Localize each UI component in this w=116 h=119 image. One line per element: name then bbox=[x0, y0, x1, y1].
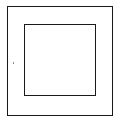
speck-mark bbox=[13, 62, 14, 64]
inner-square bbox=[24, 24, 96, 96]
